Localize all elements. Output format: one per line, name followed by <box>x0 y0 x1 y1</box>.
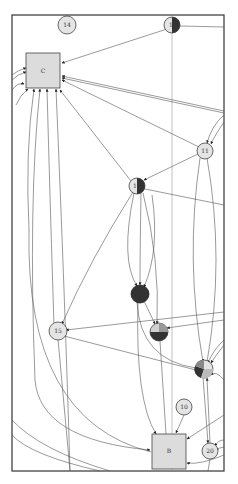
node-dark[interactable] <box>131 285 149 303</box>
node-B[interactable]: B <box>152 434 186 469</box>
svg-text:C: C <box>41 67 46 74</box>
svg-text:14: 14 <box>63 21 71 28</box>
svg-text:15: 15 <box>54 327 62 334</box>
node-14[interactable]: 14 <box>58 16 76 34</box>
node-1-top[interactable]: 1 <box>164 17 180 33</box>
graph-canvas: 14 1 C 11 1 15 10 B <box>0 0 238 484</box>
node-pie-1[interactable] <box>150 323 168 341</box>
node-pie-2[interactable] <box>194 360 213 379</box>
node-1-mid[interactable]: 1 <box>129 178 145 194</box>
svg-text:B: B <box>167 447 172 454</box>
node-11[interactable]: 11 <box>197 143 213 159</box>
node-20[interactable]: 20 <box>202 443 218 459</box>
svg-text:11: 11 <box>201 147 209 154</box>
node-C[interactable]: C <box>26 53 60 88</box>
node-10[interactable]: 10 <box>176 399 192 415</box>
svg-text:20: 20 <box>206 447 214 454</box>
svg-text:1: 1 <box>133 182 137 189</box>
svg-text:1: 1 <box>169 21 173 28</box>
node-15[interactable]: 15 <box>49 322 67 340</box>
svg-text:10: 10 <box>180 403 188 410</box>
